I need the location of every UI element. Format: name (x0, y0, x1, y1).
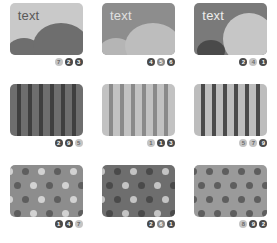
thumbnail-stripes-dark[interactable] (10, 84, 83, 136)
stripe-pattern (10, 84, 83, 136)
grid-cell-dots-dark: 261 (92, 162, 184, 243)
dot (262, 182, 267, 189)
badge[interactable]: 2 (259, 220, 267, 228)
thumbnail-scene-dark[interactable]: text (194, 3, 267, 55)
badge[interactable]: 1 (157, 139, 165, 147)
badge[interactable]: 9 (249, 220, 257, 228)
dot (102, 196, 105, 203)
grid-cell-stripes-contrast: 579 (185, 81, 277, 162)
dot (222, 168, 229, 175)
dot-pattern (194, 165, 267, 217)
stripe-pattern (194, 84, 267, 136)
grid-cell-dots-mid: 147 (0, 162, 92, 243)
hill-large-shape (223, 13, 267, 55)
thumbnail-dots-dark[interactable] (102, 165, 175, 217)
badge[interactable]: 2 (65, 58, 73, 66)
badge[interactable]: 2 (55, 139, 63, 147)
badge[interactable]: 1 (55, 220, 63, 228)
dot (30, 182, 37, 189)
badge[interactable]: 5 (75, 139, 83, 147)
dot (138, 182, 145, 189)
dot (194, 168, 197, 175)
badge-row: 579 (194, 139, 267, 147)
badge[interactable]: 1 (167, 220, 175, 228)
thumbnail-stripes-light[interactable] (102, 84, 175, 136)
thumbnail-grid: text723text456text241295113579147261892 (0, 0, 277, 243)
thumbnail-stripes-contrast[interactable] (194, 84, 267, 136)
grid-cell-dots-light: 892 (185, 162, 277, 243)
dot (54, 196, 61, 203)
dot (114, 196, 121, 203)
dot (122, 182, 129, 189)
thumbnail-dots-mid[interactable] (10, 165, 83, 217)
dot (46, 182, 53, 189)
dot (162, 196, 169, 203)
badge[interactable]: 2 (147, 220, 155, 228)
badge[interactable]: 4 (249, 58, 257, 66)
badge[interactable]: 6 (167, 58, 175, 66)
badge-row: 261 (102, 220, 175, 228)
badge-row: 723 (10, 58, 83, 66)
hill-large-shape (33, 23, 83, 55)
stripe-pattern (102, 84, 175, 136)
badge[interactable]: 7 (55, 58, 63, 66)
dot (62, 182, 69, 189)
dot (10, 196, 13, 203)
badge[interactable]: 6 (157, 220, 165, 228)
dot (78, 182, 83, 189)
dot (246, 210, 253, 217)
dot (230, 182, 237, 189)
badge[interactable]: 5 (157, 58, 165, 66)
scene-text-label: text (110, 9, 132, 22)
dot (122, 210, 129, 217)
badge-row: 456 (102, 58, 175, 66)
grid-cell-scene-light: text723 (0, 0, 92, 81)
dot-pattern (102, 165, 175, 217)
dot (30, 210, 37, 217)
dot (54, 168, 61, 175)
dot (146, 168, 153, 175)
dot (214, 210, 221, 217)
badge[interactable]: 7 (75, 220, 83, 228)
badge[interactable]: 3 (167, 139, 175, 147)
badge[interactable]: 2 (239, 58, 247, 66)
thumbnail-scene-mid[interactable]: text (102, 3, 175, 55)
grid-cell-scene-mid: text456 (92, 0, 184, 81)
dot (154, 182, 161, 189)
thumbnail-scene-light[interactable]: text (10, 3, 83, 55)
dot (254, 196, 261, 203)
dot (194, 196, 197, 203)
badge[interactable]: 9 (65, 139, 73, 147)
dot (198, 210, 205, 217)
grid-cell-stripes-light: 113 (92, 81, 184, 162)
dot (214, 182, 221, 189)
thumbnail-dots-light[interactable] (194, 165, 267, 217)
dot (22, 168, 29, 175)
dot-pattern (10, 165, 83, 217)
badge[interactable]: 8 (239, 220, 247, 228)
dot (38, 168, 45, 175)
dot (170, 210, 175, 217)
badge[interactable]: 9 (259, 139, 267, 147)
dot (206, 196, 213, 203)
badge[interactable]: 3 (75, 58, 83, 66)
dot (238, 168, 245, 175)
badge[interactable]: 1 (147, 139, 155, 147)
dot (198, 182, 205, 189)
dot (106, 210, 113, 217)
dot (78, 210, 83, 217)
badge[interactable]: 1 (259, 58, 267, 66)
hill-small-shape (197, 40, 225, 55)
dot (14, 210, 21, 217)
dot (230, 210, 237, 217)
badge[interactable]: 4 (147, 58, 155, 66)
badge[interactable]: 4 (65, 220, 73, 228)
dot (22, 196, 29, 203)
dot (70, 196, 77, 203)
badge[interactable]: 7 (249, 139, 257, 147)
scene-text-label: text (202, 9, 224, 22)
badge[interactable]: 5 (239, 139, 247, 147)
badge-row: 241 (194, 58, 267, 66)
scene-text-label: text (18, 9, 40, 22)
dot (222, 196, 229, 203)
